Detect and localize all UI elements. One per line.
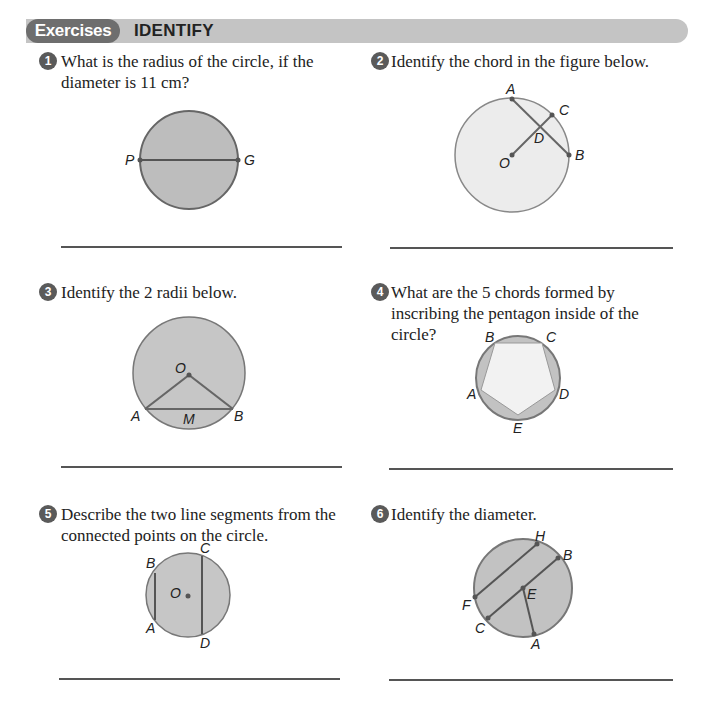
point-label: C xyxy=(546,329,557,345)
point-label: B xyxy=(146,555,155,571)
point-label: C xyxy=(559,102,570,118)
exercise-number-badge: 6 xyxy=(371,505,389,523)
answer-line[interactable] xyxy=(61,246,342,248)
point-label: O xyxy=(499,155,510,171)
point-label: B xyxy=(234,408,243,424)
point-label: C xyxy=(475,620,486,636)
point-label: A xyxy=(130,408,140,424)
answer-line[interactable] xyxy=(61,466,342,468)
radii-figure: O A M B xyxy=(120,310,260,435)
point-label: O xyxy=(175,360,186,376)
point-label: D xyxy=(559,386,569,402)
point-label: C xyxy=(200,540,211,556)
question-text: Identify the chord in the figure below. xyxy=(391,51,691,72)
point-label: M xyxy=(183,411,195,427)
answer-line[interactable] xyxy=(389,679,673,681)
exercise-number-badge: 1 xyxy=(39,52,57,70)
section-title: IDENTIFY xyxy=(134,19,214,43)
parallel-chords-figure: B C O A D xyxy=(130,540,250,655)
point-label: H xyxy=(535,528,546,544)
point-label: P xyxy=(125,152,135,168)
point-label: D xyxy=(534,130,544,146)
point-label: D xyxy=(200,635,210,651)
exercise-number-badge: 2 xyxy=(371,52,389,70)
exercises-tab-label: Exercises xyxy=(26,19,120,43)
question-text: Identify the diameter. xyxy=(391,504,681,525)
header-bar xyxy=(26,19,688,43)
point-label: F xyxy=(462,597,472,613)
question-text: What is the radius of the circle, if the… xyxy=(61,51,346,93)
point-label: G xyxy=(244,152,255,168)
chord-figure: A C D O B xyxy=(440,75,600,220)
exercise-number-badge: 3 xyxy=(39,283,57,301)
exercise-number-badge: 4 xyxy=(371,283,389,301)
point-label: E xyxy=(513,420,523,436)
answer-line[interactable] xyxy=(389,468,673,470)
point-label: A xyxy=(505,81,515,97)
diameter-figure: H B F E C A xyxy=(455,525,595,655)
point-label: B xyxy=(485,329,494,345)
point-label: A xyxy=(145,620,155,636)
point-label: E xyxy=(527,586,537,602)
point-label: O xyxy=(170,585,181,601)
point-label: B xyxy=(575,147,584,163)
circle-diameter-figure: P G xyxy=(110,100,270,220)
answer-line[interactable] xyxy=(59,678,340,680)
exercise-number-badge: 5 xyxy=(39,505,57,523)
point-label: B xyxy=(563,547,572,563)
answer-line[interactable] xyxy=(390,247,673,249)
inscribed-pentagon-figure: B C A D E xyxy=(455,325,585,440)
point-label: A xyxy=(466,386,476,402)
question-text: Identify the 2 radii below. xyxy=(61,282,346,303)
point-label: A xyxy=(530,636,540,652)
